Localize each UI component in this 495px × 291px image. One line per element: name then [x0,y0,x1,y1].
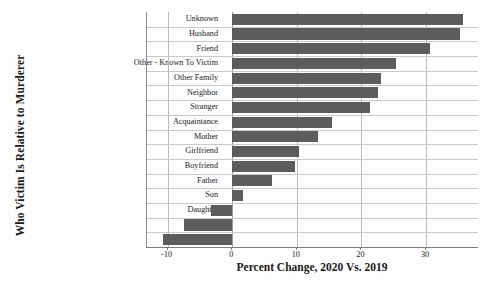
bar-row [147,71,478,86]
bar-row [147,85,478,100]
x-tick-label: -10 [161,250,172,259]
plot-area [146,12,478,247]
bar-row [147,100,478,115]
bar-row [147,56,478,71]
bar-row [147,130,478,145]
bar-row [147,27,478,42]
bar [232,161,295,172]
bar-row [147,203,478,218]
x-tick-label: 30 [421,250,429,259]
bar-row [147,159,478,174]
bar [232,117,332,128]
x-axis-title: Percent Change, 2020 Vs. 2019 [146,261,478,273]
bar [184,219,232,230]
x-tick-label: 0 [229,250,233,259]
bars-layer [147,12,478,247]
bar [232,87,377,98]
bar [232,14,463,25]
bar-chart: Who Victim Is Relative to Murderer Unkno… [0,0,495,291]
bar [232,190,243,201]
y-axis-title: Who Victim Is Relative to Murderer [0,0,40,291]
x-tick-label: 20 [356,250,364,259]
bar-row [147,144,478,159]
bar [232,146,299,157]
bar-row [147,12,478,27]
bar-row [147,41,478,56]
x-axis-ticks: -100102030 [146,247,478,261]
bar [211,205,232,216]
bar-row [147,188,478,203]
bar [232,131,317,142]
bar-row [147,174,478,189]
bar [232,175,271,186]
bar [232,43,430,54]
bar-row [147,115,478,130]
bar-row [147,218,478,233]
bar [232,102,370,113]
bar [232,73,381,84]
x-tick-label: 10 [292,250,300,259]
bar-row [147,232,478,247]
bar [232,28,459,39]
bar [163,234,232,245]
bar [232,58,396,69]
